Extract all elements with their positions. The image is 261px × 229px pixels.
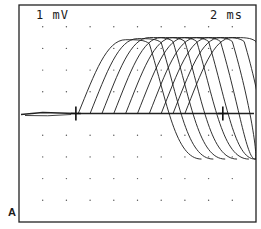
grid-dot bbox=[89, 156, 90, 157]
grid-dot bbox=[137, 178, 138, 179]
trace-10 bbox=[185, 38, 261, 160]
grid-dot bbox=[232, 69, 233, 70]
grid-dot bbox=[113, 135, 114, 136]
grid-dot bbox=[161, 48, 162, 49]
trace-3 bbox=[102, 38, 225, 160]
grid-dot bbox=[137, 200, 138, 201]
grid-dot bbox=[113, 91, 114, 92]
cursor-marker-1 bbox=[71, 107, 81, 121]
grid-dot bbox=[208, 135, 209, 136]
grid-dot bbox=[137, 156, 138, 157]
voltage-scale-label: 1 mV bbox=[36, 8, 69, 22]
grid-dot bbox=[232, 26, 233, 27]
trace-8 bbox=[161, 38, 256, 160]
grid-dot bbox=[208, 91, 209, 92]
grid-dot bbox=[161, 178, 162, 179]
grid-dot bbox=[137, 48, 138, 49]
time-scale-label: 2 ms bbox=[210, 8, 243, 22]
grid-dot bbox=[161, 200, 162, 201]
grid-dot bbox=[232, 200, 233, 201]
grid-dot bbox=[232, 48, 233, 49]
grid-dot bbox=[42, 178, 43, 179]
grid-dot bbox=[42, 26, 43, 27]
grid-dot bbox=[137, 135, 138, 136]
grid-dot bbox=[89, 26, 90, 27]
grid-dot bbox=[232, 156, 233, 157]
grid-dot bbox=[42, 200, 43, 201]
trace-2 bbox=[90, 39, 213, 159]
grid-dot bbox=[113, 200, 114, 201]
grid-dot bbox=[42, 69, 43, 70]
grid-dot bbox=[161, 26, 162, 27]
trace-plot bbox=[0, 0, 261, 229]
grid-dot bbox=[66, 48, 67, 49]
grid-dot bbox=[89, 178, 90, 179]
grid-dot bbox=[184, 26, 185, 27]
grid-dot bbox=[161, 135, 162, 136]
grid-dot bbox=[161, 156, 162, 157]
grid-dot bbox=[184, 69, 185, 70]
grid-dot bbox=[89, 69, 90, 70]
grid-dot bbox=[161, 91, 162, 92]
grid-dot bbox=[89, 48, 90, 49]
trace-4 bbox=[114, 38, 237, 160]
grid-dot bbox=[208, 69, 209, 70]
grid-dot bbox=[89, 135, 90, 136]
grid-dot bbox=[42, 91, 43, 92]
grid-dot bbox=[232, 178, 233, 179]
grid-dot bbox=[42, 135, 43, 136]
grid-dot bbox=[42, 48, 43, 49]
grid-dot bbox=[66, 200, 67, 201]
grid-dot bbox=[232, 91, 233, 92]
grid-dot bbox=[184, 135, 185, 136]
grid-dot bbox=[184, 178, 185, 179]
grid-dot bbox=[184, 200, 185, 201]
grid-dot bbox=[208, 200, 209, 201]
trace-1 bbox=[78, 40, 201, 159]
grid-dot bbox=[208, 26, 209, 27]
grid-dot bbox=[184, 156, 185, 157]
grid-dot bbox=[66, 135, 67, 136]
grid-dot bbox=[113, 48, 114, 49]
grid-dot bbox=[208, 48, 209, 49]
trace-5 bbox=[126, 38, 249, 160]
grid-dot bbox=[113, 156, 114, 157]
oscilloscope-figure: 1 mV 2 ms A bbox=[0, 0, 261, 229]
grid-dot bbox=[66, 178, 67, 179]
grid-dot bbox=[89, 200, 90, 201]
grid-dot bbox=[113, 178, 114, 179]
grid-dot bbox=[137, 69, 138, 70]
grid-dot bbox=[66, 156, 67, 157]
baseline-noise bbox=[25, 115, 71, 116]
grid-dot bbox=[66, 69, 67, 70]
grid-dot bbox=[184, 48, 185, 49]
grid-dot bbox=[208, 178, 209, 179]
grid-dot bbox=[113, 69, 114, 70]
grid-dot bbox=[208, 156, 209, 157]
grid-dot bbox=[113, 26, 114, 27]
grid-dot bbox=[66, 91, 67, 92]
grid-dot bbox=[66, 26, 67, 27]
grid-dot bbox=[232, 135, 233, 136]
grid-dot bbox=[42, 156, 43, 157]
panel-label: A bbox=[8, 206, 16, 218]
grid-dot bbox=[89, 91, 90, 92]
grid-dot bbox=[161, 69, 162, 70]
grid-dot bbox=[184, 91, 185, 92]
grid-dot bbox=[137, 26, 138, 27]
grid-dot bbox=[137, 91, 138, 92]
